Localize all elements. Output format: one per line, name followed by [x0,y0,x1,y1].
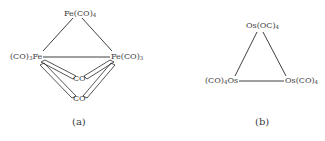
fe-top-label: Fe(CO)4 [64,10,96,18]
fe-right-label: Fe(CO)3 [111,53,143,61]
os-right-formula: Os(CO) [285,76,315,85]
os-top-label: Os(OC)4 [246,22,279,30]
os-right-subscript: 4 [315,79,319,85]
os3-triangle-bonds [235,32,286,81]
fe-left-formula: (CO) [10,52,29,61]
fe-top-formula: Fe(CO) [64,9,93,18]
os-left-label: (CO)4Os [205,77,238,85]
caption-b: (b) [255,117,269,127]
fe-top-subscript: 4 [93,12,97,18]
os-left-formula: (CO) [205,76,224,85]
bridging-co-upper: CO [73,75,86,83]
os-left-atom: Os [227,76,238,85]
os-top-subscript: 4 [276,24,280,30]
caption-a: (a) [72,117,86,127]
fe-right-subscript: 3 [140,55,144,61]
fe-left-atom: Fe [32,52,42,61]
fe3-cluster-bonds [43,18,112,57]
os-top-formula: Os(OC) [246,21,276,30]
fe-left-label: (CO)3Fe [10,53,42,61]
os-right-label: Os(CO)4 [285,77,318,85]
fe-right-formula: Fe(CO) [111,52,140,61]
bridging-co-lower: CO [73,95,86,103]
